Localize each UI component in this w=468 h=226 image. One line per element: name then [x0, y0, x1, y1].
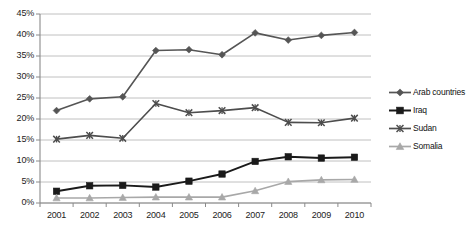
- series-arab-countries: [53, 29, 358, 114]
- line-chart: 0%5%10%15%20%25%30%35%40%45% 20012002200…: [0, 0, 468, 226]
- series-iraq: [53, 154, 357, 195]
- data-point-marker: [219, 171, 225, 177]
- data-point-marker: [318, 155, 324, 161]
- data-point-marker: [53, 188, 59, 194]
- legend-item-somalia[interactable]: Somalia: [389, 138, 468, 154]
- data-point-marker: [153, 184, 159, 190]
- data-point-marker: [285, 37, 292, 44]
- chart-legend: Arab countriesIraqSudanSomalia: [389, 84, 468, 156]
- legend-label: Iraq: [413, 105, 427, 115]
- data-point-marker: [86, 95, 93, 102]
- data-point-marker: [120, 182, 126, 188]
- legend-item-arab-countries[interactable]: Arab countries: [389, 84, 468, 100]
- series-line: [57, 157, 355, 191]
- series-line: [57, 103, 355, 139]
- legend-item-iraq[interactable]: Iraq: [389, 102, 468, 118]
- legend-marker-icon: [389, 141, 411, 152]
- legend-marker-icon: [389, 105, 411, 116]
- data-point-marker: [252, 158, 258, 164]
- series-sudan: [53, 100, 358, 142]
- data-point-marker: [186, 46, 193, 53]
- data-point-marker: [396, 88, 403, 95]
- legend-item-sudan[interactable]: Sudan: [389, 120, 468, 136]
- data-point-marker: [318, 32, 325, 39]
- data-point-marker: [86, 183, 92, 189]
- legend-marker-icon: [389, 87, 411, 98]
- legend-label: Sudan: [413, 123, 437, 133]
- data-point-marker: [285, 154, 291, 160]
- data-point-marker: [351, 154, 357, 160]
- series-line: [57, 32, 355, 110]
- legend-label: Somalia: [413, 141, 442, 151]
- legend-label: Arab countries: [413, 87, 465, 97]
- legend-marker-icon: [389, 123, 411, 134]
- series-somalia: [53, 176, 358, 201]
- data-point-marker: [186, 178, 192, 184]
- data-point-marker: [397, 107, 404, 114]
- data-point-marker: [53, 107, 60, 114]
